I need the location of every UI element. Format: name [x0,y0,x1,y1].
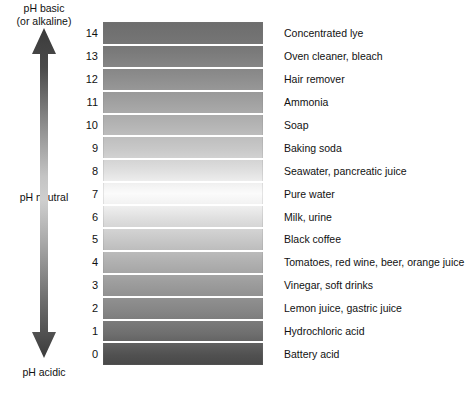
ph-substance-3: Vinegar, soft drinks [284,279,373,291]
ph-substance-12: Hair remover [284,73,345,85]
ph-substance-0: Battery acid [284,348,339,360]
band-divider-1-0 [103,341,263,343]
ph-substance-13: Oven cleaner, bleach [284,50,383,62]
ph-substance-10: Soap [284,119,309,131]
ph-substance-8: Seawater, pancreatic juice [284,165,407,177]
ph-direction-arrow [25,28,63,358]
ph-tick-2: 2 [68,302,98,314]
ph-tick-8: 8 [68,165,98,177]
band-divider-3-2 [103,296,263,298]
band-divider-6-5 [103,227,263,229]
ph-tick-5: 5 [68,233,98,245]
ph-substance-6: Milk, urine [284,211,332,223]
band-divider-14-13 [103,44,263,46]
ph-substance-7: Pure water [284,188,335,200]
ph-acidic-caption: pH acidic [0,366,88,378]
ph-substance-4: Tomatoes, red wine, beer, orange juice [284,256,464,268]
band-divider-13-12 [103,67,263,69]
band-divider-5-4 [103,250,263,252]
band-divider-12-11 [103,90,263,92]
ph-tick-14: 14 [68,27,98,39]
ph-tick-1: 1 [68,325,98,337]
ph-tick-7: 7 [68,188,98,200]
ph-substance-11: Ammonia [284,96,328,108]
ph-tick-3: 3 [68,279,98,291]
ph-tick-11: 11 [68,96,98,108]
ph-substance-labels: Concentrated lye Oven cleaner, bleach Ha… [284,22,469,365]
ph-tick-13: 13 [68,50,98,62]
band-divider-4-3 [103,273,263,275]
band-divider-7-6 [103,204,263,206]
ph-substance-2: Lemon juice, gastric juice [284,302,402,314]
ph-substance-1: Hydrochloric acid [284,325,365,337]
ph-substance-5: Black coffee [284,233,341,245]
ph-substance-14: Concentrated lye [284,27,363,39]
ph-tick-0: 0 [68,348,98,360]
band-divider-2-1 [103,319,263,321]
ph-tick-10: 10 [68,119,98,131]
ph-tick-9: 9 [68,142,98,154]
ph-gradient-bar [103,22,263,365]
band-divider-11-10 [103,113,263,115]
ph-number-axis: 14 13 12 11 10 9 8 7 6 5 4 3 2 1 0 [68,22,98,365]
band-divider-8-7 [103,181,263,183]
ph-tick-6: 6 [68,211,98,223]
band-divider-10-9 [103,135,263,137]
ph-tick-12: 12 [68,73,98,85]
band-divider-9-8 [103,158,263,160]
ph-basic-caption-line1: pH basic [0,2,88,15]
ph-tick-4: 4 [68,256,98,268]
ph-substance-9: Baking soda [284,142,342,154]
